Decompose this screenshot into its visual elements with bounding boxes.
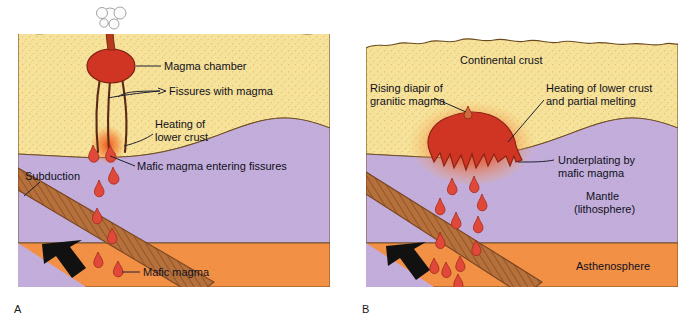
label-rising-diapir-line1: Rising diapir of	[370, 82, 444, 94]
panel-a-illustration: Magma chamber Fissures with magma Heatin…	[0, 0, 347, 300]
panel-letter-a: A	[14, 303, 22, 315]
label-mantle-line2: (lithosphere)	[574, 203, 635, 215]
panel-b-illustration: Continental crust Rising diapir of grani…	[348, 0, 695, 300]
label-magma-chamber: Magma chamber	[164, 60, 247, 72]
label-heating-line2: lower crust	[155, 131, 208, 143]
panel-b-cross-section	[366, 39, 678, 296]
label-fissures-with-magma: Fissures with magma	[169, 85, 274, 97]
panel-b: Continental crust Rising diapir of grani…	[348, 0, 695, 319]
label-subduction: Subduction	[25, 170, 80, 182]
label-underplating-line1: Underplating by	[558, 154, 636, 166]
panel-a: Magma chamber Fissures with magma Heatin…	[0, 0, 347, 319]
magma-chamber-blob	[87, 49, 135, 83]
label-asthenosphere: Asthenosphere	[576, 260, 650, 272]
label-mafic-entering: Mafic magma entering fissures	[137, 160, 287, 172]
label-heating-melting-line1: Heating of lower crust	[546, 82, 652, 94]
label-rising-diapir-line2: granitic magma	[370, 95, 446, 107]
label-continental-crust: Continental crust	[460, 54, 543, 66]
label-mafic-magma: Mafic magma	[143, 266, 210, 278]
label-heating-melting-line2: and partial melting	[546, 95, 636, 107]
eruption-cloud	[97, 7, 127, 29]
label-heating-line1: Heating of	[155, 118, 206, 130]
volcano-vent-pipe	[106, 28, 115, 50]
figure-container: Magma chamber Fissures with magma Heatin…	[0, 0, 695, 319]
label-mantle-line1: Mantle	[586, 190, 619, 202]
label-underplating-line2: mafic magma	[558, 167, 625, 179]
panel-letter-b: B	[362, 303, 370, 315]
